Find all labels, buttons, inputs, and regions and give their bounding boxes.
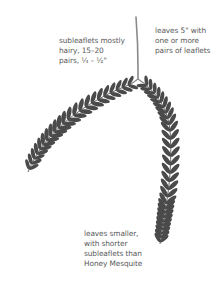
annotation-line: with shorter [84,239,142,249]
annotation-line: one or more [155,36,210,46]
left-pinna-leaflets [24,75,138,171]
annotation-line: pairs of leaflets [155,46,210,56]
annotation-line: leaves smaller, [84,229,142,239]
right-pinna-leaflets [137,75,182,243]
annotation-line: Honey Mesquite [84,259,142,269]
annotation-line: subleaflets mostly [59,36,125,46]
annotation-line: leaves 5" with [155,26,210,36]
comparison-annotation: leaves smaller, with shorter subleaflets… [84,229,142,269]
subleaflets-annotation: subleaflets mostly hairy, 15–20 pairs, ¼… [59,36,125,66]
annotation-line: hairy, 15–20 [59,46,125,56]
petiole-stem [136,17,138,79]
leaves-annotation: leaves 5" with one or more pairs of leaf… [155,26,210,56]
left-pinna-rachis [28,84,131,172]
annotation-line: pairs, ¼ – ½" [59,56,125,66]
annotation-line: subleaflets than [84,249,142,259]
leaflet-shape [153,83,157,94]
